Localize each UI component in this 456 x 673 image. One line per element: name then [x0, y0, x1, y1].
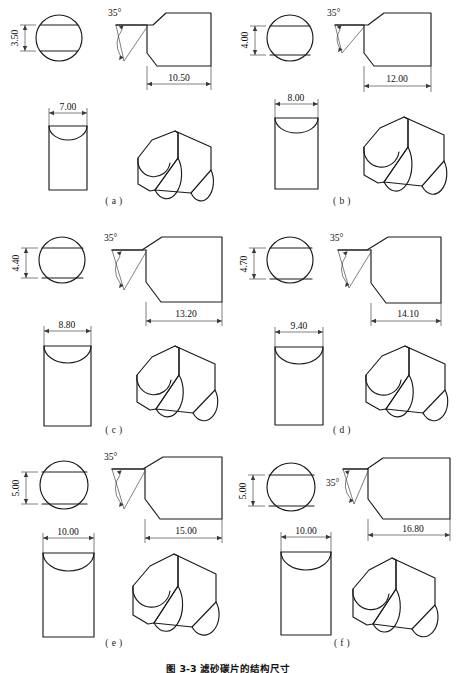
dimension-width-b-text: 8.00 [288, 92, 305, 103]
panel-b-drawing: 4.00 35° 12.00 [228, 0, 456, 218]
dimension-height-c-text: 4.40 [10, 254, 21, 271]
panel-d: 4.70 35° 14.10 [228, 222, 456, 440]
isometric-pictorial-b [364, 117, 447, 194]
front-view-profile-a [116, 13, 211, 66]
side-view-rectangle-f [281, 552, 331, 635]
dimension-height-a [20, 25, 36, 51]
figure-caption: 图 3-3 滤砂碳片的结构尺寸 [0, 662, 456, 673]
engineering-drawing-sheet: 3.50 35° 10.50 [0, 0, 456, 673]
dimension-height-e [21, 472, 38, 504]
dimension-height-f [248, 475, 265, 506]
dimension-height-b-text: 4.00 [239, 31, 250, 48]
top-view-circle-c [39, 237, 85, 283]
angle-label-f: 35° [326, 477, 340, 488]
top-view-circle-f [267, 463, 315, 511]
dimension-width-f-text: 10.00 [295, 525, 317, 536]
dimension-width-c-text: 8.80 [59, 319, 76, 330]
side-view-rectangle-a [49, 126, 87, 190]
panel-b-label: ( b ) [228, 196, 456, 206]
top-view-circle-d [267, 237, 313, 283]
angle-label-d: 35° [330, 232, 344, 243]
panel-c-drawing: 4.40 35° 13.20 [0, 222, 228, 440]
panel-f-label: ( f ) [228, 638, 456, 648]
angle-indicator-f [343, 469, 368, 504]
dimension-height-a-text: 3.50 [9, 29, 20, 46]
dimension-length-b-text: 12.00 [386, 73, 408, 84]
dimension-width-d-text: 9.40 [291, 320, 308, 331]
front-view-profile-d [338, 237, 441, 303]
panel-d-drawing: 4.70 35° 14.10 [228, 222, 456, 440]
angle-indicator-b [335, 25, 364, 53]
top-view-circle-a [36, 15, 82, 61]
dimension-height-d-text: 4.70 [238, 255, 249, 272]
front-view-profile-b [335, 13, 431, 66]
side-view-rectangle-e [43, 553, 94, 637]
isometric-pictorial-d [366, 346, 448, 421]
angle-label-b: 35° [327, 7, 341, 18]
panel-a-drawing: 3.50 35° 10.50 [0, 0, 228, 218]
panel-a-label: ( a ) [0, 196, 228, 206]
dimension-height-e-text: 5.00 [10, 479, 21, 496]
angle-indicator-c [112, 250, 146, 290]
panel-d-label: ( d ) [228, 425, 456, 435]
dimension-length-f-text: 16.80 [402, 523, 424, 534]
dimension-length-e-text: 15.00 [175, 525, 197, 536]
angle-label-e: 35° [104, 451, 118, 462]
top-view-circle-b [267, 15, 313, 61]
top-view-circle-e [40, 461, 88, 509]
panel-c-label: ( c ) [0, 425, 228, 435]
isometric-pictorial-e [133, 554, 219, 635]
isometric-pictorial-f [353, 558, 438, 637]
panel-e: 5.00 35° 15.00 [0, 447, 228, 662]
panel-c: 4.40 35° 13.20 [0, 222, 228, 440]
isometric-pictorial-c [137, 346, 218, 421]
dimension-length-c-text: 13.20 [175, 308, 197, 319]
panel-f-drawing: 5.00 35° 16.80 [228, 447, 456, 662]
front-view-profile-f [343, 458, 450, 519]
angle-indicator-e [112, 469, 145, 509]
side-view-rectangle-b [275, 118, 318, 189]
dimension-length-d-text: 14.10 [397, 308, 419, 319]
dimension-length-a-text: 10.50 [168, 72, 190, 83]
dimension-width-e-text: 10.00 [57, 526, 79, 537]
front-view-profile-e [112, 457, 222, 519]
angle-label-c: 35° [104, 232, 118, 243]
angle-indicator-a [116, 25, 147, 61]
angle-label-a: 35° [108, 7, 122, 18]
panel-b: 4.00 35° 12.00 [228, 0, 456, 218]
dimension-height-b [250, 26, 266, 55]
dimension-height-c [21, 248, 38, 278]
side-view-rectangle-d [275, 347, 323, 425]
front-view-profile-c [112, 237, 222, 302]
panel-f: 5.00 35° 16.80 [228, 447, 456, 662]
dimension-height-f-text: 5.00 [237, 482, 248, 499]
panel-e-drawing: 5.00 35° 15.00 [0, 447, 228, 662]
dimension-width-a-text: 7.00 [60, 101, 77, 112]
panel-a: 3.50 35° 10.50 [0, 0, 228, 218]
angle-indicator-d [338, 250, 371, 288]
isometric-pictorial-a [138, 131, 214, 201]
dimension-height-d [249, 248, 266, 279]
panel-e-label: ( e ) [0, 638, 228, 648]
side-view-rectangle-c [44, 346, 91, 426]
